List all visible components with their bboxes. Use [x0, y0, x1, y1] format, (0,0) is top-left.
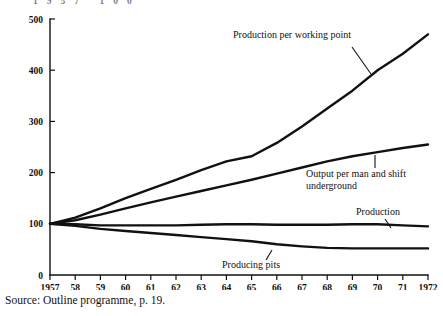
series-annotation-label: Producing pits: [222, 259, 280, 270]
series-annotation-label: underground: [306, 180, 357, 191]
x-axis: 195758596061626364656667686970711972: [41, 275, 438, 290]
series-annotation-label: Output per man and shift: [306, 168, 406, 179]
y-axis-tick-label: 500: [29, 15, 44, 25]
x-axis-tick-label: 71: [398, 283, 408, 290]
x-axis-tick-label: 66: [272, 283, 282, 290]
y-axis-tick-label: 400: [29, 66, 44, 76]
y-axis-tick-label: 0: [38, 271, 43, 281]
line-chart: 0100200300400500 19575859606162636465666…: [0, 0, 443, 290]
x-axis-tick-label: 67: [297, 283, 307, 290]
y-axis: 0100200300400500: [29, 15, 55, 281]
x-axis-tick-label: 65: [247, 283, 257, 290]
source-note: Source: Outline programme, p. 19.: [5, 294, 165, 306]
x-axis-tick-label: 68: [322, 283, 332, 290]
x-axis-tick-label: 58: [70, 283, 80, 290]
series-annotation-label: Production per working point: [233, 29, 351, 40]
x-axis-tick-label: 1972: [419, 283, 438, 290]
x-axis-tick-label: 1957: [41, 283, 60, 290]
x-axis-ticks: 195758596061626364656667686970711972: [41, 275, 438, 290]
x-axis-tick-label: 63: [196, 283, 206, 290]
x-axis-tick-label: 59: [96, 283, 106, 290]
y-axis-ticks: 0100200300400500: [29, 15, 55, 281]
y-axis-tick-label: 300: [29, 117, 44, 127]
x-axis-tick-label: 62: [171, 283, 181, 290]
x-axis-tick-label: 69: [348, 283, 358, 290]
y-axis-tick-label: 200: [29, 168, 44, 178]
chart-page: 1957 100 0100200300400500 19575859606162…: [0, 0, 443, 316]
series-annotations: Production per working pointOutput per m…: [222, 29, 406, 270]
series-line: [50, 224, 428, 227]
series-line: [50, 224, 428, 249]
x-axis-tick-label: 61: [146, 283, 156, 290]
x-axis-tick-label: 64: [222, 283, 232, 290]
x-axis-tick-label: 70: [373, 283, 383, 290]
series-annotation-label: Production: [356, 206, 400, 217]
annotation-leader-line: [352, 47, 371, 74]
series-line: [50, 34, 428, 223]
x-axis-tick-label: 60: [121, 283, 131, 290]
y-axis-tick-label: 100: [29, 219, 44, 229]
